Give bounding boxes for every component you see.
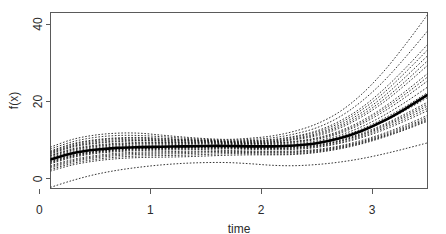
x-tick-label-1: 1 [147,203,154,217]
chart-canvas: 020400123timef(x) [0,0,446,234]
posterior-draw-curve [51,77,428,156]
posterior-draw-curve [51,108,428,163]
posterior-draw-curve [51,45,428,151]
axis-labels-group: 020400123timef(x) [7,17,376,234]
y-axis-title: f(x) [7,92,21,109]
posterior-draw-curve [51,111,428,164]
posterior-draw-curve [51,65,428,154]
chart-figure: 020400123timef(x) [0,0,446,234]
curves-group [51,15,428,188]
axes-group [39,13,427,194]
posterior-mean-curve [51,95,428,160]
x-tick-label-0: 0 [36,203,43,217]
y-tick-label-1: 20 [32,94,46,108]
posterior-draw-curve [51,74,428,156]
y-tick-label-2: 40 [32,17,46,31]
y-tick-label-0: 0 [32,175,46,182]
posterior-draw-curve [51,61,428,153]
x-tick-label-3: 3 [369,203,376,217]
posterior-draw-curve [51,115,428,165]
x-tick-label-2: 2 [258,203,265,217]
posterior-draw-curve [51,56,428,153]
x-axis-title: time [228,222,251,234]
